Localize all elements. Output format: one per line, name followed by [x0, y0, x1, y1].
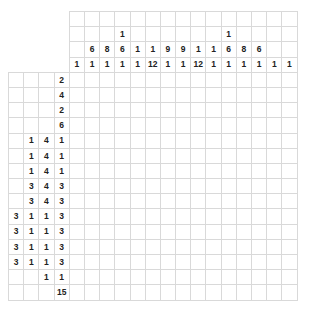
puzzle-cell[interactable]: [267, 239, 282, 254]
puzzle-cell[interactable]: [282, 72, 297, 87]
puzzle-cell[interactable]: [69, 285, 84, 300]
puzzle-cell[interactable]: [252, 148, 267, 163]
puzzle-cell[interactable]: [130, 103, 145, 118]
puzzle-cell[interactable]: [267, 87, 282, 102]
puzzle-cell[interactable]: [100, 103, 115, 118]
puzzle-cell[interactable]: [160, 87, 175, 102]
puzzle-cell[interactable]: [221, 209, 236, 224]
puzzle-cell[interactable]: [160, 148, 175, 163]
puzzle-cell[interactable]: [176, 103, 191, 118]
puzzle-cell[interactable]: [115, 163, 130, 178]
puzzle-cell[interactable]: [282, 133, 297, 148]
puzzle-cell[interactable]: [206, 239, 221, 254]
puzzle-cell[interactable]: [69, 148, 84, 163]
puzzle-cell[interactable]: [115, 179, 130, 194]
puzzle-cell[interactable]: [130, 163, 145, 178]
puzzle-cell[interactable]: [191, 133, 206, 148]
puzzle-cell[interactable]: [130, 118, 145, 133]
puzzle-cell[interactable]: [267, 270, 282, 285]
puzzle-cell[interactable]: [84, 270, 99, 285]
puzzle-cell[interactable]: [282, 224, 297, 239]
puzzle-cell[interactable]: [236, 133, 251, 148]
puzzle-cell[interactable]: [130, 224, 145, 239]
puzzle-cell[interactable]: [145, 179, 160, 194]
puzzle-cell[interactable]: [252, 163, 267, 178]
puzzle-cell[interactable]: [267, 133, 282, 148]
puzzle-cell[interactable]: [191, 285, 206, 300]
puzzle-cell[interactable]: [115, 239, 130, 254]
puzzle-cell[interactable]: [206, 148, 221, 163]
puzzle-cell[interactable]: [252, 285, 267, 300]
puzzle-cell[interactable]: [100, 285, 115, 300]
puzzle-cell[interactable]: [236, 270, 251, 285]
puzzle-cell[interactable]: [191, 103, 206, 118]
puzzle-cell[interactable]: [221, 133, 236, 148]
puzzle-cell[interactable]: [191, 224, 206, 239]
puzzle-cell[interactable]: [100, 209, 115, 224]
puzzle-cell[interactable]: [191, 239, 206, 254]
puzzle-cell[interactable]: [130, 72, 145, 87]
puzzle-cell[interactable]: [176, 255, 191, 270]
puzzle-cell[interactable]: [221, 285, 236, 300]
puzzle-cell[interactable]: [115, 148, 130, 163]
puzzle-cell[interactable]: [84, 87, 99, 102]
puzzle-cell[interactable]: [282, 270, 297, 285]
puzzle-cell[interactable]: [84, 209, 99, 224]
puzzle-cell[interactable]: [160, 270, 175, 285]
puzzle-cell[interactable]: [84, 179, 99, 194]
puzzle-cell[interactable]: [221, 194, 236, 209]
puzzle-cell[interactable]: [145, 224, 160, 239]
puzzle-cell[interactable]: [267, 179, 282, 194]
puzzle-cell[interactable]: [130, 239, 145, 254]
puzzle-cell[interactable]: [206, 72, 221, 87]
puzzle-cell[interactable]: [145, 118, 160, 133]
puzzle-cell[interactable]: [100, 72, 115, 87]
puzzle-cell[interactable]: [84, 239, 99, 254]
puzzle-cell[interactable]: [115, 72, 130, 87]
puzzle-cell[interactable]: [206, 224, 221, 239]
puzzle-cell[interactable]: [176, 285, 191, 300]
puzzle-cell[interactable]: [176, 194, 191, 209]
puzzle-cell[interactable]: [282, 194, 297, 209]
puzzle-cell[interactable]: [69, 72, 84, 87]
puzzle-cell[interactable]: [69, 239, 84, 254]
puzzle-cell[interactable]: [145, 285, 160, 300]
puzzle-cell[interactable]: [160, 103, 175, 118]
puzzle-cell[interactable]: [145, 72, 160, 87]
puzzle-cell[interactable]: [176, 72, 191, 87]
puzzle-cell[interactable]: [176, 87, 191, 102]
puzzle-cell[interactable]: [145, 239, 160, 254]
puzzle-cell[interactable]: [100, 148, 115, 163]
puzzle-cell[interactable]: [206, 103, 221, 118]
puzzle-cell[interactable]: [206, 194, 221, 209]
puzzle-cell[interactable]: [191, 270, 206, 285]
puzzle-cell[interactable]: [252, 270, 267, 285]
puzzle-cell[interactable]: [69, 103, 84, 118]
puzzle-cell[interactable]: [221, 87, 236, 102]
puzzle-cell[interactable]: [130, 179, 145, 194]
puzzle-cell[interactable]: [145, 87, 160, 102]
puzzle-cell[interactable]: [145, 133, 160, 148]
puzzle-cell[interactable]: [191, 72, 206, 87]
puzzle-cell[interactable]: [252, 239, 267, 254]
puzzle-cell[interactable]: [130, 133, 145, 148]
puzzle-cell[interactable]: [160, 239, 175, 254]
puzzle-cell[interactable]: [115, 209, 130, 224]
puzzle-cell[interactable]: [236, 224, 251, 239]
puzzle-cell[interactable]: [69, 179, 84, 194]
puzzle-cell[interactable]: [282, 239, 297, 254]
puzzle-cell[interactable]: [282, 103, 297, 118]
puzzle-cell[interactable]: [221, 239, 236, 254]
puzzle-cell[interactable]: [160, 255, 175, 270]
puzzle-cell[interactable]: [145, 270, 160, 285]
puzzle-cell[interactable]: [282, 179, 297, 194]
puzzle-cell[interactable]: [191, 163, 206, 178]
puzzle-cell[interactable]: [84, 72, 99, 87]
puzzle-cell[interactable]: [176, 270, 191, 285]
puzzle-cell[interactable]: [115, 224, 130, 239]
puzzle-cell[interactable]: [221, 179, 236, 194]
puzzle-cell[interactable]: [160, 72, 175, 87]
puzzle-cell[interactable]: [160, 133, 175, 148]
puzzle-cell[interactable]: [267, 163, 282, 178]
puzzle-cell[interactable]: [252, 255, 267, 270]
